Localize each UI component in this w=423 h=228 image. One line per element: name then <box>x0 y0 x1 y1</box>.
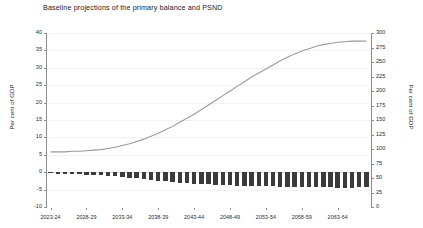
left-tick-mark <box>44 120 46 121</box>
left-tick-label: 15 <box>20 117 42 123</box>
x-tick-label: 2048-49 <box>213 214 247 220</box>
right-tick-mark <box>372 207 374 208</box>
left-tick-label: 0 <box>20 169 42 175</box>
x-tick-mark <box>122 208 123 210</box>
right-tick-label: 75 <box>376 161 400 167</box>
left-tick-mark <box>44 172 46 173</box>
left-tick-mark <box>44 103 46 104</box>
right-tick-label: 250 <box>376 59 400 65</box>
x-tick-label: 2053-54 <box>249 214 283 220</box>
x-tick-mark <box>51 208 52 210</box>
plot-area <box>47 33 370 207</box>
right-tick-label: 300 <box>376 30 400 36</box>
right-tick-label: 200 <box>376 88 400 94</box>
left-tick-label: 25 <box>20 82 42 88</box>
x-tick-label: 2058-59 <box>285 214 319 220</box>
line-series-psnd <box>47 33 370 207</box>
left-tick-mark <box>44 50 46 51</box>
right-tick-mark <box>372 91 374 92</box>
left-tick-mark <box>44 137 46 138</box>
x-tick-mark <box>158 208 159 210</box>
left-tick-label: 10 <box>20 134 42 140</box>
right-tick-mark <box>372 120 374 121</box>
right-tick-label: 0 <box>376 204 400 210</box>
left-tick-label: 40 <box>20 30 42 36</box>
left-tick-mark <box>44 85 46 86</box>
right-tick-mark <box>372 149 374 150</box>
left-tick-mark <box>44 33 46 34</box>
left-tick-label: 20 <box>20 100 42 106</box>
right-axis-title: Per cent of GDP <box>408 77 414 137</box>
x-tick-label: 2033-34 <box>105 214 139 220</box>
chart-container: Baseline projections of the primary bala… <box>0 0 423 228</box>
right-tick-mark <box>372 164 374 165</box>
right-tick-mark <box>372 77 374 78</box>
right-tick-mark <box>372 33 374 34</box>
left-tick-mark <box>44 207 46 208</box>
right-tick-mark <box>372 106 374 107</box>
right-tick-mark <box>372 178 374 179</box>
x-tick-mark <box>230 208 231 210</box>
x-axis-labels: 2023-242028-292033-342038-392043-442048-… <box>0 210 423 224</box>
right-tick-label: 125 <box>376 132 400 138</box>
x-tick-mark <box>266 208 267 210</box>
left-tick-label: 30 <box>20 65 42 71</box>
x-tick-label: 2028-29 <box>69 214 103 220</box>
left-axis-title: Per cent of GDP <box>9 77 15 137</box>
x-tick-mark <box>338 208 339 210</box>
right-tick-label: 225 <box>376 74 400 80</box>
left-tick-label: -5 <box>20 187 42 193</box>
x-tick-label: 2063-64 <box>321 214 355 220</box>
right-tick-mark <box>372 48 374 49</box>
x-tick-label: 2038-39 <box>141 214 175 220</box>
right-tick-label: 100 <box>376 146 400 152</box>
left-tick-label: 5 <box>20 152 42 158</box>
left-tick-label: -10 <box>20 204 42 210</box>
x-tick-mark <box>302 208 303 210</box>
right-tick-label: 25 <box>376 190 400 196</box>
left-tick-mark <box>44 155 46 156</box>
left-tick-mark <box>44 68 46 69</box>
left-tick-mark <box>44 190 46 191</box>
right-tick-mark <box>372 193 374 194</box>
x-tick-mark <box>194 208 195 210</box>
x-tick-mark <box>86 208 87 210</box>
x-tick-label: 2043-44 <box>177 214 211 220</box>
left-tick-label: 35 <box>20 47 42 53</box>
right-tick-label: 150 <box>376 117 400 123</box>
x-tick-label: 2023-24 <box>34 214 68 220</box>
right-tick-mark <box>372 62 374 63</box>
chart-title: Baseline projections of the primary bala… <box>43 3 223 12</box>
right-tick-mark <box>372 135 374 136</box>
right-tick-label: 275 <box>376 45 400 51</box>
right-tick-label: 50 <box>376 175 400 181</box>
right-tick-label: 175 <box>376 103 400 109</box>
